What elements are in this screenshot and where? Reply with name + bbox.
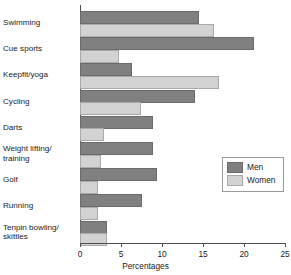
x-tick-25 [285, 243, 286, 247]
bar-men-3 [80, 90, 195, 103]
legend-label-men: Men [247, 163, 263, 172]
bar-men-2 [80, 63, 132, 76]
bar-women-3 [80, 102, 141, 115]
x-tick-label-15: 15 [193, 249, 213, 259]
x-tick-0 [80, 243, 81, 247]
legend-item-men: Men [227, 161, 283, 174]
x-tick-20 [244, 243, 245, 247]
legend-swatch-women-icon [227, 175, 243, 186]
category-label-0: Swimming [3, 18, 79, 28]
bar-men-7 [80, 194, 142, 207]
x-tick-label-20: 20 [234, 249, 254, 259]
category-label-4: Darts [3, 123, 79, 133]
bar-men-8 [80, 221, 107, 234]
bar-women-7 [80, 207, 98, 220]
legend-swatch-men-icon [227, 162, 243, 173]
bar-women-2 [80, 76, 219, 89]
legend: Men Women [222, 157, 284, 192]
bar-men-4 [80, 116, 153, 129]
category-label-3: Cycling [3, 97, 79, 107]
bar-women-0 [80, 24, 214, 37]
bar-men-5 [80, 142, 153, 155]
bar-women-6 [80, 181, 98, 194]
legend-item-women: Women [227, 174, 283, 187]
bar-women-1 [80, 50, 119, 63]
x-tick-label-10: 10 [152, 249, 172, 259]
x-tick-label-25: 25 [275, 249, 291, 259]
bar-men-1 [80, 37, 254, 50]
bar-men-0 [80, 11, 199, 24]
category-label-5: Weight lifting/ training [3, 144, 79, 163]
category-label-6: Golf [3, 175, 79, 185]
x-axis-title: Percentages [0, 261, 291, 271]
bar-chart: SwimmingCue sportsKeepfit/yogaCyclingDar… [0, 0, 291, 275]
x-tick-10 [162, 243, 163, 247]
plot-area [80, 5, 285, 243]
bar-women-8 [80, 233, 107, 246]
x-tick-label-5: 5 [111, 249, 131, 259]
legend-label-women: Women [247, 176, 275, 185]
category-label-7: Running [3, 201, 79, 211]
category-axis-labels: SwimmingCue sportsKeepfit/yogaCyclingDar… [0, 0, 78, 243]
category-label-1: Cue sports [3, 44, 79, 54]
bar-men-6 [80, 168, 157, 181]
category-label-2: Keepfit/yoga [3, 70, 79, 80]
x-tick-label-0: 0 [70, 249, 90, 259]
x-axis-line [80, 243, 286, 244]
bar-women-4 [80, 128, 104, 141]
bar-women-5 [80, 155, 101, 168]
x-tick-5 [121, 243, 122, 247]
x-tick-15 [203, 243, 204, 247]
category-label-8: Tenpin bowling/ skittles [3, 223, 79, 242]
